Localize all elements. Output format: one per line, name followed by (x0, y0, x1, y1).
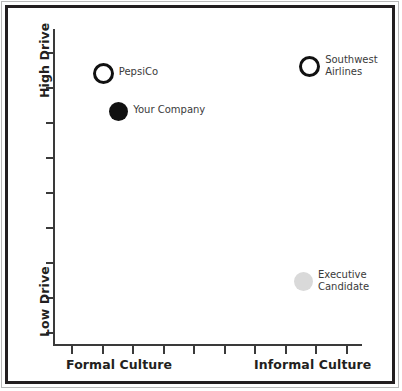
x-axis-tick (224, 346, 226, 354)
x-axis-tick (163, 346, 165, 354)
plot-area: High Drive Low Drive Formal Culture Info… (0, 0, 402, 391)
data-point-marker (294, 272, 313, 291)
y-axis-label-high: High Drive (37, 23, 52, 98)
x-axis-tick (315, 346, 317, 354)
y-axis-tick (46, 192, 54, 194)
data-point-label: Your Company (133, 104, 205, 117)
y-axis-label-low: Low Drive (37, 266, 52, 337)
data-point-marker (93, 63, 114, 84)
y-axis-tick (46, 227, 54, 229)
x-axis-tick (285, 346, 287, 354)
x-axis-tick (193, 346, 195, 354)
data-point-label: PepsiCo (119, 66, 158, 79)
y-axis-tick (46, 262, 54, 264)
x-axis-tick (132, 346, 134, 354)
data-point-marker (109, 102, 128, 121)
x-axis-tick (254, 346, 256, 354)
data-point-label: Southwest Airlines (325, 54, 378, 79)
x-axis-tick (346, 346, 348, 354)
x-axis-label-formal: Formal Culture (66, 357, 172, 372)
y-axis-tick (46, 157, 54, 159)
x-axis-tick (71, 346, 73, 354)
data-point-label: Executive Candidate (318, 269, 369, 294)
chart-figure: High Drive Low Drive Formal Culture Info… (0, 0, 402, 391)
y-axis-tick (46, 122, 54, 124)
x-axis-label-informal: Informal Culture (254, 357, 371, 372)
data-point-marker (299, 56, 320, 77)
x-axis-tick (102, 346, 104, 354)
